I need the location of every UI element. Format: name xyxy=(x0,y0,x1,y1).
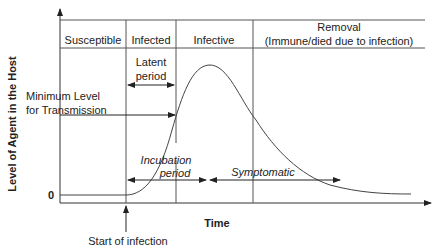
start-infection-label: Start of infection xyxy=(88,235,168,247)
x-axis-label: Time xyxy=(204,217,229,229)
stage-susceptible: Susceptible xyxy=(65,34,122,46)
infection-timeline-diagram: Susceptible Infected Infective Removal (… xyxy=(0,0,438,252)
zero-label: 0 xyxy=(48,189,54,201)
latent-label-2: period xyxy=(136,70,167,82)
min-level-label-1: Minimum Level xyxy=(26,90,100,102)
symptomatic-label: Symptomatic xyxy=(231,166,295,178)
stage-removal-detail: (Immune/died due to infection) xyxy=(265,35,414,47)
y-axis-label: Level of Agent in the Host xyxy=(6,56,18,192)
stage-infected: Infected xyxy=(131,34,170,46)
incubation-label-2: period xyxy=(159,167,191,179)
min-level-label-2: for Transmission xyxy=(26,104,107,116)
incubation-label-1: Incubation xyxy=(141,154,192,166)
stage-removal: Removal xyxy=(317,21,360,33)
stage-infective: Infective xyxy=(194,34,235,46)
latent-label-1: Latent xyxy=(136,56,167,68)
